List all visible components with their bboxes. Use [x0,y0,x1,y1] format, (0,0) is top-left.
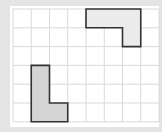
bottom-l-shape [31,65,68,121]
top-l-shape [86,9,141,47]
grid-diagram [0,0,162,132]
